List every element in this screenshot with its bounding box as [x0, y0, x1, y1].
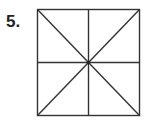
divided-square-figure — [0, 0, 150, 124]
center-dot — [87, 61, 91, 65]
